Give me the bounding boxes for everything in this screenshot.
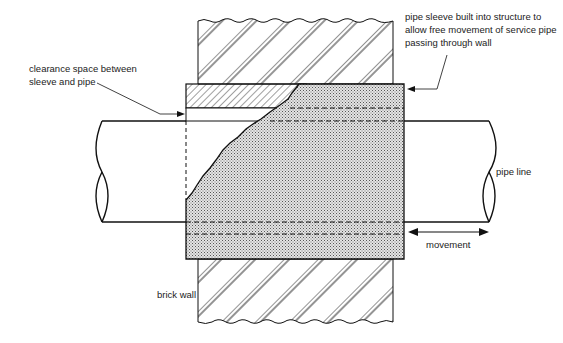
pipe-sleeve xyxy=(186,84,404,259)
svg-text:sleeve and pipe: sleeve and pipe xyxy=(29,76,96,87)
pipe-right xyxy=(404,121,496,222)
svg-text:pipe sleeve built into structu: pipe sleeve built into structure to xyxy=(405,11,541,22)
svg-text:allow free movement of service: allow free movement of service pipe xyxy=(405,24,557,35)
svg-text:passing through wall: passing through wall xyxy=(405,37,492,48)
brick-wall-lower xyxy=(198,259,393,324)
svg-text:pipe line: pipe line xyxy=(496,166,531,177)
pipe-sleeve-diagram: clearance space between sleeve and pipe … xyxy=(0,0,563,343)
brick-wall-upper xyxy=(198,19,393,84)
arrow-left-icon xyxy=(408,228,418,236)
svg-text:clearance space between: clearance space between xyxy=(29,63,137,74)
arrowhead-icon xyxy=(177,111,185,117)
label-pipe-line: pipe line xyxy=(496,166,531,177)
arrow-right-icon xyxy=(479,228,489,236)
arrowhead-icon xyxy=(407,86,415,92)
movement-arrow: movement xyxy=(408,228,489,250)
label-clearance: clearance space between sleeve and pipe xyxy=(29,63,185,117)
svg-text:movement: movement xyxy=(426,239,471,250)
pipe-left xyxy=(96,121,186,222)
label-sleeve: pipe sleeve built into structure to allo… xyxy=(405,11,557,92)
label-brick-wall: brick wall xyxy=(157,289,196,300)
svg-text:brick wall: brick wall xyxy=(157,289,196,300)
